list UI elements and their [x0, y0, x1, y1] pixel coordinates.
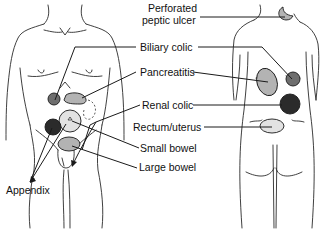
leader-appendix-1: [30, 128, 52, 182]
label-small-bowel: Small bowel: [140, 142, 197, 154]
leader-small-bowel: [72, 121, 139, 148]
label-perforated-peptic-ulcer-2: peptic ulcer: [142, 14, 196, 26]
abdominal-pain-sites-diagram: Perforated peptic ulcer Biliary colic Pa…: [0, 0, 326, 230]
gallbladder-region: [48, 93, 60, 105]
rectum-uterus-region: [260, 119, 284, 133]
pancreas-region: [64, 93, 86, 104]
leader-renal-front: [82, 105, 140, 150]
biliary-back-region: [286, 72, 300, 86]
label-perforated-peptic-ulcer-1: Perforated: [148, 2, 197, 14]
label-rectum-uterus: Rectum/uterus: [133, 121, 201, 133]
label-appendix: Appendix: [6, 184, 51, 196]
arrowhead-icon: [71, 160, 77, 167]
label-renal-colic: Renal colic: [142, 99, 193, 111]
leader-large-bowel: [72, 146, 137, 168]
small-bowel-region: [59, 110, 81, 132]
large-bowel-region: [58, 137, 80, 151]
perforated-ulcer-region: [279, 7, 293, 20]
appendix-region-dark: [45, 119, 61, 135]
label-large-bowel: Large bowel: [139, 161, 196, 173]
label-biliary-colic: Biliary colic: [140, 41, 193, 53]
back-body-outline: [233, 5, 319, 228]
kidney-dashed-outline: [83, 100, 95, 119]
renal-back-region: [280, 94, 300, 114]
label-pancreatitis: Pancreatitis: [140, 66, 195, 78]
